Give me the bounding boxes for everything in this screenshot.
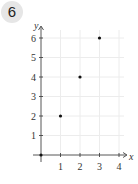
svg-text:1: 1	[58, 161, 63, 172]
scatter-chart: 1 2 3 4 1 2 3 4 5 6 x y	[0, 0, 138, 184]
data-point	[39, 153, 42, 156]
svg-text:2: 2	[78, 161, 83, 172]
x-axis-label: x	[128, 151, 134, 162]
data-point	[78, 75, 81, 78]
y-axis	[39, 26, 44, 162]
svg-text:6: 6	[31, 33, 36, 44]
svg-text:5: 5	[31, 52, 36, 63]
data-point	[98, 36, 101, 39]
svg-text:3: 3	[97, 161, 102, 172]
svg-text:1: 1	[31, 130, 36, 141]
svg-text:3: 3	[31, 91, 36, 102]
y-axis-label: y	[33, 20, 39, 31]
y-tick-labels: 1 2 3 4 5 6	[31, 33, 36, 142]
svg-text:2: 2	[31, 111, 36, 122]
svg-text:4: 4	[31, 72, 36, 83]
data-point	[59, 114, 62, 117]
x-tick-labels: 1 2 3 4	[58, 161, 122, 172]
svg-text:4: 4	[117, 161, 122, 172]
grid	[41, 30, 124, 155]
